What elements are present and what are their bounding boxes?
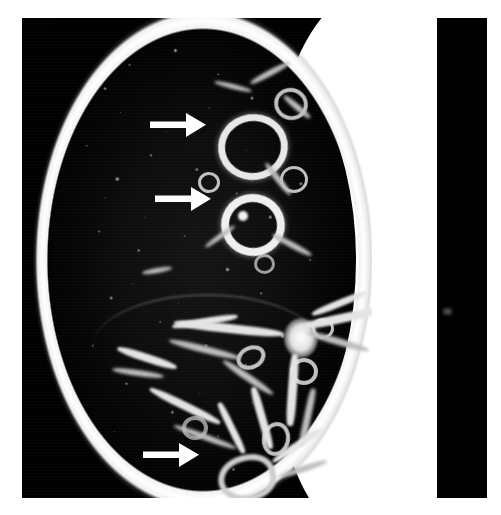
cystic-lesion-middle-nodule <box>238 211 248 221</box>
ct-figure-root <box>0 0 501 515</box>
small-cyst-c <box>198 172 220 193</box>
ct-scan-frame <box>22 18 437 498</box>
right-strip-speck <box>443 308 452 315</box>
small-cyst-d <box>254 254 275 274</box>
right-black-strip <box>437 18 487 498</box>
scan-white-band <box>372 18 437 498</box>
